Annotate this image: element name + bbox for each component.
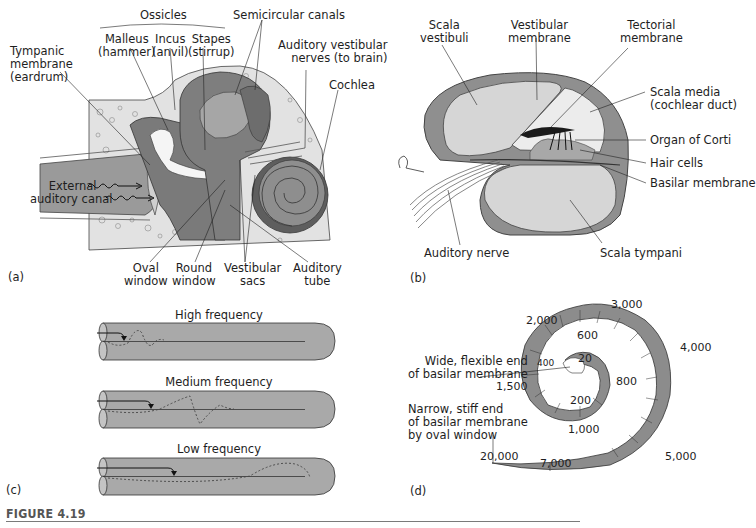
label-ossicles: Ossicles xyxy=(140,9,187,22)
panel-a-tag: (a) xyxy=(8,270,24,284)
tube-line-2: tube xyxy=(293,275,342,288)
vestibular-membrane-line-2: membrane xyxy=(508,32,571,45)
freq-4000: 4,000 xyxy=(680,342,712,354)
label-stapes: Stapes (stirrup) xyxy=(188,33,235,59)
label-hair-cells: Hair cells xyxy=(650,157,703,170)
round-line-2: window xyxy=(172,275,216,288)
title-low-frequency: Low frequency xyxy=(109,442,329,456)
label-semicircular-canals: Semicircular canals xyxy=(233,9,345,22)
figure-caption: FIGURE 4.19 xyxy=(6,506,86,521)
label-tectorial-membrane: Tectorial membrane xyxy=(620,19,683,45)
freq-400: 400 xyxy=(537,357,554,369)
label-scala-media: Scala media (cochlear duct) xyxy=(650,86,737,112)
caption-rule-divider xyxy=(6,521,580,522)
frequency-wave-illustration xyxy=(0,290,380,505)
label-external-auditory-canal: External auditory canal xyxy=(30,180,112,206)
freq-1500: 1,500 xyxy=(496,381,528,393)
nerves-line-2: nerves (to brain) xyxy=(278,52,388,65)
freq-20: 20 xyxy=(578,353,592,365)
narrow-line-3: by oval window xyxy=(408,429,528,442)
freq-1000: 1,000 xyxy=(568,424,600,436)
basilar-membrane-spiral xyxy=(380,285,742,505)
freq-3000: 3,000 xyxy=(611,299,643,311)
incus-subtext: (anvil) xyxy=(152,46,189,59)
label-tympanic-membrane: Tympanic membrane (eardrum) xyxy=(10,45,73,84)
canal-line-2: auditory canal xyxy=(30,193,112,206)
label-auditory-vestibular-nerves: Auditory vestibular nerves (to brain) xyxy=(278,39,388,65)
freq-2000: 2,000 xyxy=(526,315,558,327)
freq-800: 800 xyxy=(616,376,637,388)
oval-line-2: window xyxy=(124,275,168,288)
label-round-window: Round window xyxy=(172,262,216,288)
tube-medium xyxy=(97,391,335,428)
tympanic-line-3: (eardrum) xyxy=(10,71,73,84)
panel-b-cochlea-cross-section: Scala vestibuli Vestibular membrane Tect… xyxy=(380,0,742,290)
label-narrow-stiff-end: Narrow, stiff end of basilar membrane by… xyxy=(408,403,528,442)
label-scala-tympani: Scala tympani xyxy=(600,247,682,260)
label-auditory-tube: Auditory tube xyxy=(293,262,342,288)
scala-media-line-2: (cochlear duct) xyxy=(650,99,737,112)
label-oval-window: Oval window xyxy=(124,262,168,288)
title-medium-frequency: Medium frequency xyxy=(109,375,329,389)
stapes-subtext: (stirrup) xyxy=(188,46,235,59)
panel-c-tag: (c) xyxy=(6,483,21,497)
label-basilar-membrane: Basilar membrane xyxy=(650,177,756,190)
panel-c-frequency-tubes: High frequency Medium frequency Low freq… xyxy=(0,290,380,505)
panel-a-ear-anatomy: Ossicles Malleus (hammer) Incus (anvil) … xyxy=(0,0,380,285)
label-scala-vestibuli: Scala vestibuli xyxy=(420,19,469,45)
tube-low xyxy=(97,458,335,495)
label-incus: Incus (anvil) xyxy=(152,33,189,59)
freq-20000: 20,000 xyxy=(480,451,519,463)
freq-5000: 5,000 xyxy=(665,451,697,463)
freq-7000: 7,000 xyxy=(540,458,572,470)
label-organ-of-corti: Organ of Corti xyxy=(650,134,731,147)
scala-vestibuli-line-2: vestibuli xyxy=(420,32,469,45)
title-high-frequency: High frequency xyxy=(109,308,329,322)
panel-d-tag: (d) xyxy=(410,484,426,498)
label-wide-flexible-end: Wide, flexible end of basilar membrane xyxy=(408,355,528,381)
label-vestibular-sacs: Vestibular sacs xyxy=(224,262,281,288)
vestib-line-2: sacs xyxy=(224,275,281,288)
tube-high xyxy=(97,323,335,360)
label-malleus: Malleus (hammer) xyxy=(98,33,156,59)
tectorial-line-2: membrane xyxy=(620,32,683,45)
panel-b-tag: (b) xyxy=(410,271,426,285)
freq-600: 600 xyxy=(577,330,598,342)
malleus-subtext: (hammer) xyxy=(98,46,156,59)
label-cochlea: Cochlea xyxy=(329,79,375,92)
freq-200: 200 xyxy=(570,395,591,407)
label-vestibular-membrane: Vestibular membrane xyxy=(508,19,571,45)
label-auditory-nerve: Auditory nerve xyxy=(424,247,509,260)
panel-d-basilar-spiral: Wide, flexible end of basilar membrane N… xyxy=(380,285,742,505)
